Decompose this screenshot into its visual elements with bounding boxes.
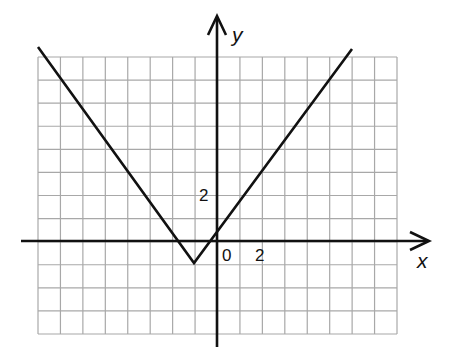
x-tick-label-2: 2 bbox=[255, 247, 264, 264]
graph-canvas bbox=[0, 0, 449, 355]
axes bbox=[21, 16, 429, 347]
origin-label: 0 bbox=[222, 247, 231, 264]
x-axis-label: x bbox=[417, 250, 428, 271]
y-tick-label-2: 2 bbox=[199, 187, 208, 204]
y-axis-label: y bbox=[232, 24, 243, 45]
